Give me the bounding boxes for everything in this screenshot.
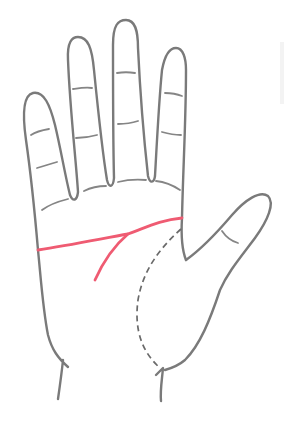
hand-illustration	[0, 0, 286, 431]
palm-diagram	[0, 0, 286, 431]
palm-base-crease-index	[156, 181, 180, 190]
heart-line	[38, 218, 182, 250]
head-line-branch	[95, 234, 128, 280]
ring-crease-upper	[73, 88, 92, 89]
palm-base-crease-pinky	[42, 199, 68, 210]
pinky-crease-upper	[31, 129, 49, 135]
ring-crease-lower	[76, 135, 97, 138]
wrist-right-outline	[156, 368, 163, 401]
middle-crease-upper	[117, 72, 135, 73]
index-crease-upper	[165, 93, 182, 96]
palm-base-crease-middle	[118, 180, 146, 182]
hand-outline	[24, 20, 186, 399]
index-crease-lower	[162, 132, 181, 135]
life-line	[137, 229, 181, 368]
pinky-crease-lower	[37, 162, 57, 168]
middle-crease-lower	[118, 121, 138, 124]
thumb-crease	[222, 231, 238, 243]
palm-base-crease-ring	[84, 186, 106, 191]
